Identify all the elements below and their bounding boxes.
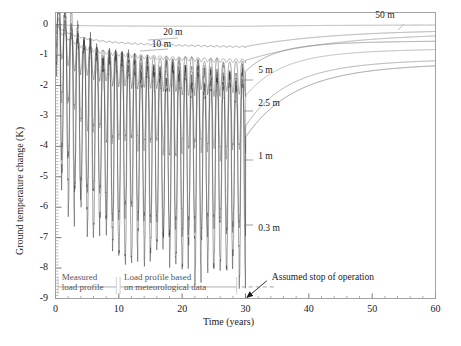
legend-note-load-profile-meteorological: Load profile basedon meteorological data (124, 272, 206, 292)
series-line-20-m (56, 25, 436, 48)
legend-note-line-2: on meteorological data (124, 282, 206, 292)
x-tick-label-4: 40 (296, 303, 322, 314)
leader-line-10-m (140, 49, 168, 51)
legend-note-line-2: load profile (62, 282, 104, 292)
y-tick-label-4: -4 (22, 139, 48, 150)
y-tick-label-8: -8 (22, 261, 48, 272)
x-axis-title: Time (years) (203, 316, 254, 327)
series-line-5-m (56, 18, 436, 97)
legend-note-line-1: Measured (62, 272, 104, 282)
annotation-assumed-stop-of-operation: Assumed stop of operation (272, 272, 374, 282)
series-line-10-m (56, 25, 436, 63)
y-tick-label-3: -3 (22, 109, 48, 120)
series-line-50-m (56, 25, 436, 27)
ground-temperature-change-plot (0, 0, 461, 346)
x-tick-label-0: 0 (43, 303, 69, 314)
y-tick-label-9: -9 (22, 292, 48, 303)
x-tick-label-3: 30 (233, 303, 259, 314)
y-tick-label-1: -1 (22, 48, 48, 59)
series-layer (56, 13, 436, 289)
legend-note-measured-load-profile: Measuredload profile (62, 272, 104, 292)
x-tick-label-1: 10 (106, 303, 132, 314)
series-label-10-m: 10 m (152, 39, 171, 49)
legend-note-line-1: Load profile based (124, 272, 206, 282)
x-tick-label-2: 20 (169, 303, 195, 314)
y-tick-label-6: -6 (22, 200, 48, 211)
series-label-20-m: 20 m (163, 27, 182, 37)
series-label-50-m: 50 m (375, 10, 394, 20)
y-tick-label-2: -2 (22, 79, 48, 90)
series-line-0-3-m (56, 13, 436, 289)
y-tick-label-7: -7 (22, 231, 48, 242)
y-tick-label-0: 0 (22, 18, 48, 29)
x-tick-label-6: 60 (423, 303, 449, 314)
series-label-0-3-m: 0.3 m (258, 223, 280, 233)
y-tick-label-5: -5 (22, 170, 48, 181)
chart-figure: Ground temperature change (K) Time (year… (0, 0, 461, 346)
x-tick-label-5: 50 (359, 303, 385, 314)
series-label-2-5-m: 2.5 m (258, 98, 280, 108)
series-label-1-m: 1 m (258, 151, 273, 161)
series-label-5-m: 5 m (258, 65, 273, 75)
assumed-stop-arrow (247, 281, 267, 298)
